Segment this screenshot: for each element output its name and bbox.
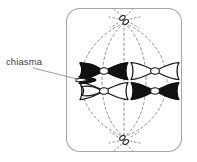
- aster-ray: [126, 9, 133, 16]
- aster-ray: [131, 132, 139, 137]
- chiasma-leader-line: [33, 68, 79, 80]
- chromosome-right-lower: [131, 83, 179, 100]
- aster-ray: [114, 9, 122, 16]
- aster-ray: [109, 141, 119, 143]
- centromere-right-upper: [151, 68, 160, 74]
- bivalent-left: [76, 63, 128, 100]
- spindle-fiber: [102, 23, 124, 137]
- chiasma-crossover-point: [76, 76, 96, 83]
- chromosome-right-upper: [131, 63, 179, 80]
- aster-ray: [110, 23, 118, 28]
- chromosome-left-lower: [80, 83, 128, 100]
- bivalent-right: [131, 63, 179, 100]
- annotation-chiasma: chiasma: [6, 56, 79, 80]
- aster-ray: [126, 144, 133, 151]
- aster-ray: [110, 132, 118, 137]
- centrosome-bottom: [119, 134, 130, 145]
- aster-ray: [131, 23, 139, 28]
- aster-ray: [109, 17, 119, 19]
- centromere-left-upper: [100, 68, 109, 74]
- centrosome-top: [119, 14, 130, 25]
- aster-ray: [130, 141, 140, 143]
- aster-ray: [130, 17, 140, 19]
- centromere-right-lower: [151, 88, 160, 94]
- diagram-canvas: chiasma: [0, 0, 197, 162]
- spindle-fiber: [124, 23, 167, 137]
- chiasma-diagram-figure: chiasma: [0, 0, 197, 162]
- centromere-left-lower: [100, 88, 109, 94]
- chiasma-label: chiasma: [6, 56, 43, 67]
- aster-ray: [114, 144, 122, 151]
